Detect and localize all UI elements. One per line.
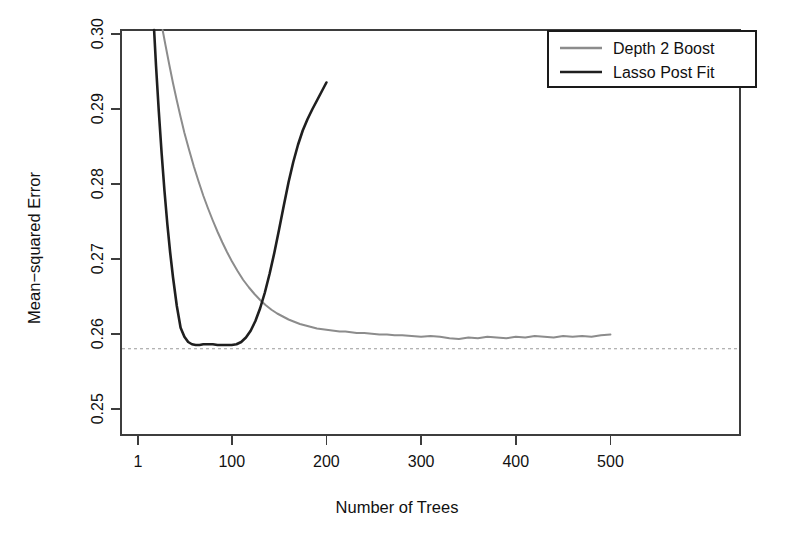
- plot-frame: [121, 30, 740, 435]
- mse-vs-trees-line-chart: 0.250.260.270.280.290.30 110020030040050…: [0, 0, 788, 546]
- y-tick-label: 0.30: [89, 18, 106, 49]
- x-tick-label: 1: [134, 453, 143, 470]
- legend-label-depth-2-boost: Depth 2 Boost: [613, 40, 715, 57]
- y-tick-label: 0.26: [89, 318, 106, 349]
- x-axis-ticks: 1100200300400500: [134, 435, 624, 470]
- y-axis-title: Mean−squared Error: [25, 172, 43, 324]
- x-tick-label: 300: [408, 453, 435, 470]
- y-tick-label: 0.28: [89, 168, 106, 199]
- y-axis-ticks: 0.250.260.270.280.290.30: [89, 18, 121, 424]
- y-tick-label: 0.25: [89, 393, 106, 424]
- x-tick-label: 200: [313, 453, 340, 470]
- legend: Depth 2 Boost Lasso Post Fit: [548, 31, 756, 87]
- x-tick-label: 100: [218, 453, 245, 470]
- legend-label-lasso-post-fit: Lasso Post Fit: [613, 64, 715, 81]
- series-group: [154, 30, 610, 345]
- x-tick-label: 500: [597, 453, 624, 470]
- y-tick-label: 0.29: [89, 93, 106, 124]
- x-axis-title: Number of Trees: [336, 498, 459, 516]
- y-tick-label: 0.27: [89, 243, 106, 274]
- series-lasso-post-fit: [154, 30, 326, 345]
- series-depth-2-boost: [163, 30, 611, 339]
- x-tick-label: 400: [502, 453, 529, 470]
- chart-figure: 0.250.260.270.280.290.30 110020030040050…: [0, 0, 788, 546]
- axes-box: [121, 30, 740, 435]
